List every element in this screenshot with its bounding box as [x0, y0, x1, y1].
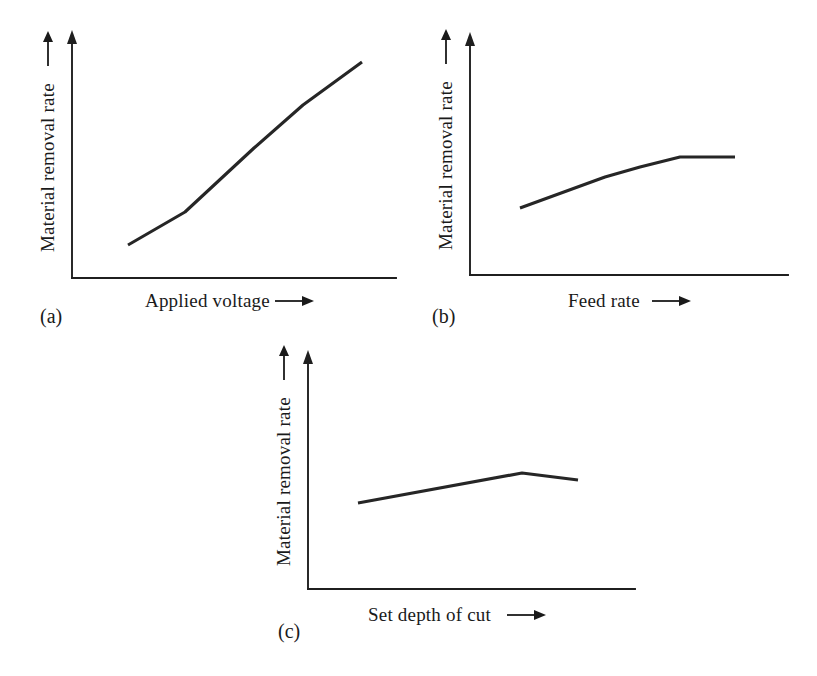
- chart-panel-c: Material removal rate Set depth of cut: [245, 340, 645, 670]
- y-axis-label-a: Material removal rate: [37, 83, 58, 252]
- chart-panel-b: Material removal rate Feed rate: [430, 20, 810, 340]
- x-axis-label-a: Applied voltage: [145, 290, 270, 311]
- x-axis-label-c: Set depth of cut: [368, 604, 492, 625]
- y-axis-label-arrow-a: [43, 31, 53, 66]
- y-axis-arrow-head-c: [303, 350, 313, 364]
- y-axis-label-c: Material removal rate: [273, 397, 294, 566]
- data-curve-c: [358, 473, 578, 503]
- y-axis-label-b: Material removal rate: [435, 81, 456, 250]
- x-axis-label-arrow-a: [275, 296, 314, 306]
- chart-svg-c: Material removal rate Set depth of cut: [245, 340, 645, 670]
- x-axis-label-b: Feed rate: [568, 290, 640, 311]
- chart-svg-a: Material removal rate Applied voltage: [30, 20, 410, 340]
- figure-root: Material removal rate Applied voltage (a…: [0, 0, 817, 676]
- data-curve-b: [520, 157, 735, 208]
- x-axis-label-arrow-c: [507, 610, 546, 620]
- data-curve-a: [128, 62, 362, 245]
- y-axis-label-arrow-c: [279, 345, 289, 380]
- chart-svg-b: Material removal rate Feed rate: [430, 20, 810, 340]
- y-axis-arrow-head-b: [465, 32, 475, 46]
- chart-panel-a: Material removal rate Applied voltage: [30, 20, 410, 340]
- x-axis-label-arrow-b: [652, 296, 691, 306]
- y-axis-arrow-head-a: [67, 30, 77, 44]
- panel-caption-c: (c): [278, 620, 300, 643]
- panel-caption-b: (b): [432, 305, 455, 328]
- panel-caption-a: (a): [40, 305, 62, 328]
- y-axis-label-arrow-b: [441, 29, 451, 64]
